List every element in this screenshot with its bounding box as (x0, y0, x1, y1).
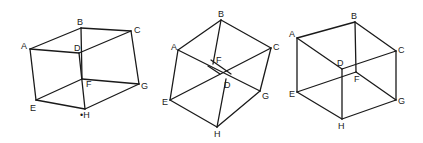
vertex-label-G: G (262, 91, 269, 101)
vertex-label-A: A (171, 42, 177, 52)
vertex-label-H: •H (80, 110, 90, 120)
edge-BC (81, 28, 131, 31)
cube-diagrams: ABCDEFG•H ABCDEFGH ABCDEFGH (0, 0, 423, 143)
vertex-label-B: B (218, 9, 224, 19)
cube-2-impossible: ABCDEFGH (162, 9, 280, 139)
edge-AD (297, 38, 342, 69)
edge-DC (342, 51, 396, 69)
vertex-label-F: F (86, 79, 92, 89)
vertex-label-A: A (21, 41, 27, 51)
edge-CG (131, 31, 139, 84)
edge-HG (85, 84, 139, 109)
vertex-label-F: F (216, 55, 222, 65)
vertex-label-D: D (224, 80, 231, 90)
edge-EH (170, 100, 217, 127)
edge-EF (36, 79, 82, 100)
edge-AE (30, 49, 36, 100)
edge-BC (355, 22, 396, 51)
edge-EH (297, 92, 342, 119)
vertex-label-D: D (337, 58, 344, 68)
vertex-label-C: C (398, 45, 405, 55)
vertex-label-F: F (354, 74, 360, 84)
cube-3: ABCDEFGH (289, 11, 405, 131)
vertex-label-B: B (77, 17, 83, 27)
edge-HG (217, 91, 260, 127)
vertex-label-E: E (30, 103, 36, 113)
vertex-label-G: G (141, 81, 148, 91)
cube-1: ABCDEFG•H (21, 17, 148, 120)
edge-CG (260, 48, 271, 91)
vertex-label-B: B (351, 11, 357, 21)
vertex-label-E: E (162, 97, 168, 107)
edge-HG (342, 100, 396, 119)
edge-FG (356, 72, 396, 100)
vertex-label-C: C (134, 25, 141, 35)
vertex-label-G: G (398, 96, 405, 106)
edge-EH (36, 100, 85, 109)
vertex-label-H: H (338, 121, 345, 131)
vertex-label-E: E (289, 89, 295, 99)
vertex-label-D: D (74, 43, 81, 53)
vertex-label-C: C (273, 42, 280, 52)
edge-AB (297, 22, 355, 38)
vertex-label-A: A (289, 29, 295, 39)
edge-DC (79, 31, 131, 53)
vertex-label-H: H (214, 129, 221, 139)
edge-AB (178, 20, 221, 50)
edge-AD (30, 49, 79, 53)
edge-BC (221, 20, 271, 48)
edge-AE (170, 50, 178, 100)
edge-EF (297, 72, 356, 92)
